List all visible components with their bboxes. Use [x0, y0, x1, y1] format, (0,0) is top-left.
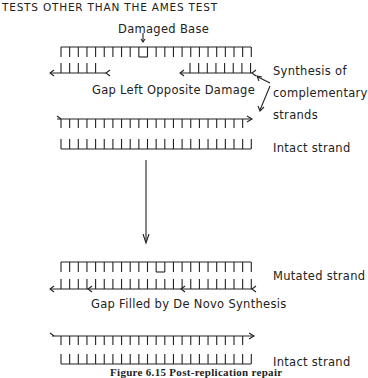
gap-filled-label: Gap Filled by De Novo Synthesis [91, 297, 287, 311]
intact-strand-label-bottom: Intact strand [273, 355, 351, 369]
intact-strand-label-top: Intact strand [273, 141, 351, 155]
gap-filled-strand [50, 279, 256, 292]
synthesis-label-line1: Synthesis of [273, 64, 347, 78]
synthesis-label-line3: strands [273, 108, 318, 122]
right-nascent-fragment [180, 63, 256, 76]
damaged-base-label: Damaged Base [118, 22, 209, 36]
intact-strand-bottom [61, 354, 251, 364]
left-nascent-fragment [50, 63, 110, 76]
process-arrow-icon [143, 160, 149, 243]
intact-strand-top [61, 139, 251, 149]
synthesis-pointer-arrows-icon [257, 76, 270, 111]
gap-left-label: Gap Left Opposite Damage [92, 83, 255, 97]
figure-caption: Figure 6.15 Post-replication repair [110, 366, 282, 378]
damaged-parent-strand [61, 47, 251, 57]
new-strand-top [57, 116, 252, 128]
mutated-strand-label: Mutated strand [273, 269, 365, 283]
synthesis-label-line2: complementary [273, 86, 368, 100]
mutated-strand [61, 262, 251, 272]
new-strand-bottom [50, 333, 254, 345]
